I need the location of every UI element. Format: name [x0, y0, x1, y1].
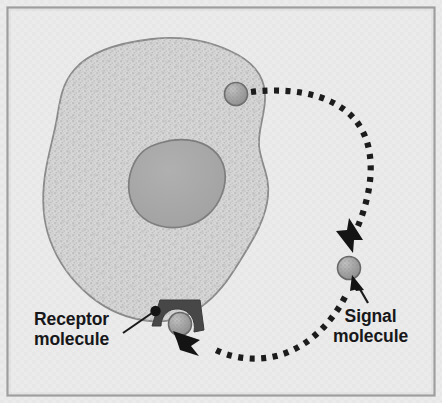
receptor-molecule-label: Receptor molecule: [34, 310, 109, 349]
signal-molecule-label: Signal molecule: [333, 307, 408, 346]
internal-signal-molecule: [225, 83, 248, 106]
receptor-label-line1: Receptor: [34, 310, 109, 330]
signal-label-line1: Signal: [333, 307, 408, 327]
receptor-label-line2: molecule: [34, 330, 109, 350]
signal-label-line2: molecule: [333, 327, 408, 347]
receptor-attachment-dot: [150, 306, 160, 316]
external-signal-molecule: [338, 257, 361, 280]
cell-signaling-diagram: Receptor molecule Signal molecule: [0, 0, 442, 403]
bound-signal-molecule: [169, 313, 192, 336]
